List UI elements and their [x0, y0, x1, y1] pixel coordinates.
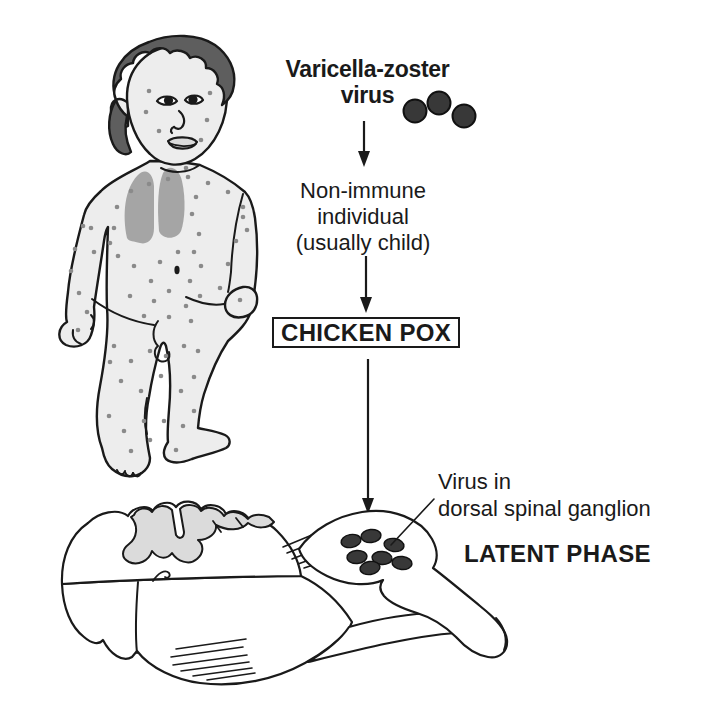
arrow-virus-to-host-icon	[358, 121, 370, 167]
title-line-1: Varicella-zoster	[255, 56, 480, 82]
diagram-title: Varicella-zoster virus	[255, 56, 480, 108]
host-label: Non-immune individual (usually child)	[258, 178, 468, 256]
host-line-1: Non-immune	[258, 178, 468, 204]
chicken-pox-label: CHICKEN POX	[281, 319, 451, 347]
spinal-cord-illustration	[62, 499, 507, 684]
latent-phase-label: LATENT PHASE	[464, 540, 651, 568]
host-line-2: individual	[258, 204, 468, 230]
arrow-chickenpox-to-latent-icon	[362, 359, 374, 514]
right-lung	[158, 168, 185, 238]
title-line-2: virus	[255, 82, 480, 108]
left-pupil	[164, 96, 173, 105]
child-illustration	[59, 36, 257, 476]
ganglion-label-line-2: dorsal spinal ganglion	[438, 495, 651, 522]
mouth	[168, 137, 197, 148]
ganglion-label-line-1: Virus in	[438, 468, 651, 495]
chicken-pox-box: CHICKEN POX	[272, 317, 460, 348]
ganglion-label: Virus in dorsal spinal ganglion	[438, 468, 651, 522]
navel	[174, 266, 179, 274]
diagram-canvas: Varicella-zoster virus Non-immune indivi…	[0, 0, 703, 712]
right-pupil	[188, 95, 197, 104]
host-line-3: (usually child)	[258, 230, 468, 256]
arrow-host-to-chickenpox-icon	[360, 256, 372, 313]
